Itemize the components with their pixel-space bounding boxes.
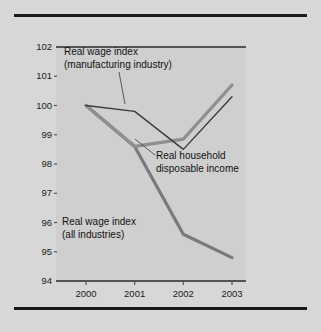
annotation-all-industries: Real wage index (all industries) (62, 216, 136, 241)
annotation-household: Real household disposable income (156, 150, 239, 175)
annotation-manufacturing: Real wage index (manufacturing industry) (64, 46, 172, 71)
chart-figure: Index numbers, 2000 = 100 10210110099989… (0, 0, 321, 332)
